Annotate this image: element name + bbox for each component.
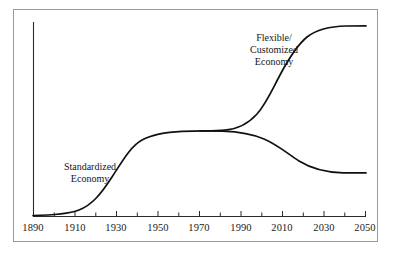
x-axis-ticks [34,211,366,217]
x-tick-label-2050: 2050 [354,223,375,234]
x-tick-label-1910: 1910 [64,223,85,234]
x-tick-label-2030: 2030 [313,223,334,234]
x-tick-label-1890: 1890 [22,223,43,234]
chart-plot-area [0,0,399,254]
x-tick-label-1990: 1990 [230,223,251,234]
x-tick-label-1970: 1970 [188,223,209,234]
x-tick-label-1950: 1950 [147,223,168,234]
chart-figure: 1890 1910 1930 1950 1970 1990 2010 2030 … [0,0,399,254]
x-tick-label-1930: 1930 [105,223,126,234]
standardized-economy-label-line1: Standardized [64,161,116,173]
flexible-economy-label-line3: Economy [250,56,298,68]
standardized-economy-label: Standardized Economy [64,161,116,185]
flexible-economy-label-line1: Flexible/ [250,32,298,44]
x-tick-label-2010: 2010 [271,223,292,234]
standardized-economy-label-line2: Economy [64,173,116,185]
flexible-economy-label-line2: Customized [250,44,298,56]
flexible-economy-label: Flexible/ Customized Economy [250,32,298,67]
